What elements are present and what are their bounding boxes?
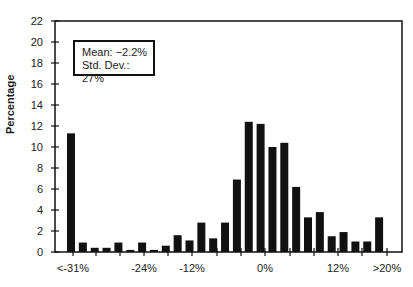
histogram-bar: [304, 217, 312, 252]
histogram-bar: [138, 243, 146, 252]
histogram-bar: [162, 246, 170, 252]
y-tick-label: 20: [31, 36, 43, 48]
histogram-bar: [114, 243, 122, 252]
x-tick-label: <-31%: [57, 262, 89, 274]
x-tick-label: -12%: [179, 262, 205, 274]
y-tick-label: 0: [37, 246, 43, 258]
histogram-bar: [209, 238, 217, 252]
histogram-bar: [340, 232, 348, 252]
histogram-bar: [316, 212, 324, 252]
y-tick-label: 14: [31, 99, 43, 111]
histogram-bar: [268, 147, 276, 252]
x-tick-label: 0%: [257, 262, 273, 274]
y-tick-label: 18: [31, 57, 43, 69]
histogram-bar: [351, 242, 359, 253]
y-tick-label: 6: [37, 183, 43, 195]
histogram-bar: [375, 217, 383, 252]
std-dev-label: Std. Dev.: 27%: [82, 59, 153, 85]
histogram-bar: [328, 236, 336, 252]
histogram-bar: [126, 250, 134, 252]
y-tick-label: 16: [31, 78, 43, 90]
histogram-bar: [150, 250, 158, 252]
y-tick-label: 4: [37, 204, 43, 216]
x-tick-label: -24%: [131, 262, 157, 274]
histogram-bar: [197, 223, 205, 252]
histogram-bar: [67, 133, 75, 252]
y-tick-label: 2: [37, 225, 43, 237]
histogram-bar: [257, 124, 265, 252]
y-tick-label: 8: [37, 162, 43, 174]
y-tick-label: 12: [31, 120, 43, 132]
mean-label: Mean: −2.2%: [82, 46, 153, 59]
y-tick-label: 10: [31, 141, 43, 153]
histogram-bar: [363, 242, 371, 253]
histogram-bar: [103, 248, 111, 252]
y-tick-label: 22: [31, 15, 43, 27]
histogram-bar: [221, 223, 229, 252]
y-axis-label: Percentage: [4, 75, 16, 134]
histogram-bar: [245, 122, 253, 252]
x-tick-label: >20%: [373, 262, 402, 274]
histogram-bar: [233, 180, 241, 252]
x-tick-label: 12%: [327, 262, 349, 274]
histogram-bar: [280, 143, 288, 252]
histogram-bar: [91, 248, 99, 252]
stats-legend-box: Mean: −2.2% Std. Dev.: 27%: [73, 40, 155, 76]
histogram-bar: [79, 243, 87, 252]
histogram-bar: [174, 235, 182, 252]
histogram-chart: 0246810121416182022<-31%-24%-12%0%12%>20…: [0, 0, 413, 287]
histogram-bar: [292, 187, 300, 252]
